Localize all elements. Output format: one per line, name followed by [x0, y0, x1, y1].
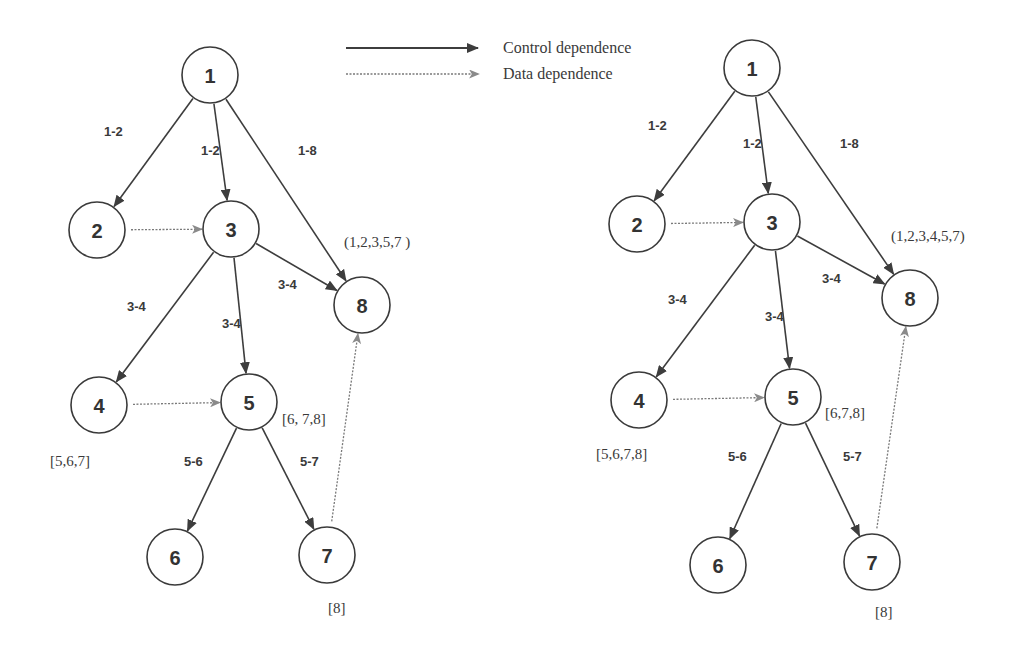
- node-5-set-annotation: [6, 7,8]: [282, 411, 326, 427]
- node-label: 1: [204, 65, 215, 87]
- edge-label-5-7: 5-7: [300, 454, 319, 469]
- data-dependence-edge-7-to-8: [332, 334, 358, 522]
- node-label: 3: [225, 219, 236, 241]
- control-dependence-edge-1-to-8: [768, 92, 893, 274]
- edge-label-3-8: 3-4: [278, 277, 298, 292]
- data-dependence-edge-4-to-5: [133, 403, 220, 405]
- graph-right: 1-21-21-83-43-43-45-65-712384567(1,2,3,4…: [596, 40, 965, 620]
- node-5: 5: [765, 369, 821, 425]
- edge-label-3-4: 3-4: [127, 299, 147, 314]
- edge-label-5-6: 5-6: [184, 454, 203, 469]
- control-dependence-edge-1-to-2: [114, 98, 193, 206]
- control-dependence-edge-3-to-4: [656, 245, 754, 377]
- edge-label-1-3: 1-2: [743, 136, 762, 151]
- control-dependence-edge-1-to-2: [654, 91, 735, 200]
- node-5: 5: [221, 374, 277, 430]
- legend-data-label: Data dependence: [503, 65, 613, 83]
- node-label: 7: [866, 552, 877, 574]
- node-3: 3: [744, 194, 800, 250]
- graph-left: 1-21-21-83-43-43-45-65-712384567(1,2,3,5…: [50, 47, 410, 616]
- node-label: 1: [746, 58, 757, 80]
- node-4: 4: [71, 377, 127, 433]
- edge-label-1-2: 1-2: [648, 118, 667, 133]
- node-2: 2: [69, 202, 125, 258]
- node-label: 5: [243, 392, 254, 414]
- node-label: 2: [631, 214, 642, 236]
- edge-label-1-8: 1-8: [298, 143, 317, 158]
- legend-control-label: Control dependence: [503, 39, 631, 57]
- control-dependence-edge-3-to-4: [116, 252, 213, 382]
- node-8: 8: [334, 277, 390, 333]
- edge-label-1-2: 1-2: [104, 124, 123, 139]
- control-dependence-edge-5-to-6: [730, 423, 781, 538]
- node-1: 1: [182, 47, 238, 103]
- data-dependence-edge-2-to-3: [131, 229, 202, 230]
- node-label: 4: [93, 395, 105, 417]
- data-dependence-edge-2-to-3: [671, 222, 743, 223]
- node-1: 1: [724, 40, 780, 96]
- edge-label-3-8: 3-4: [822, 271, 842, 286]
- edge-label-5-7: 5-7: [843, 449, 862, 464]
- node-7: 7: [299, 527, 355, 583]
- edge-label-3-4: 3-4: [668, 292, 688, 307]
- node-2: 2: [609, 196, 665, 252]
- node-5-set-annotation: [6,7,8]: [825, 405, 865, 421]
- node-4-set-annotation: [5,6,7,8]: [596, 446, 647, 462]
- node-label: 4: [633, 390, 645, 412]
- control-dependence-edge-5-to-7: [262, 428, 314, 529]
- node-8-set-annotation: (1,2,3,5,7 ): [344, 234, 410, 251]
- dependence-graph-figure: Control dependence Data dependence 1-21-…: [0, 0, 1033, 663]
- edge-label-1-3: 1-2: [201, 143, 220, 158]
- node-7-set-annotation: [8]: [328, 600, 346, 616]
- edge-label-5-6: 5-6: [728, 449, 747, 464]
- node-label: 6: [169, 547, 180, 569]
- data-dependence-edge-7-to-8: [877, 327, 906, 529]
- control-dependence-edge-5-to-6: [187, 428, 236, 531]
- edge-label-3-5: 3-4: [765, 309, 785, 324]
- legend: Control dependence Data dependence: [346, 39, 631, 83]
- control-dependence-edge-5-to-7: [806, 423, 860, 536]
- node-8: 8: [882, 270, 938, 326]
- node-6: 6: [147, 529, 203, 585]
- node-label: 5: [787, 387, 798, 409]
- node-4: 4: [611, 372, 667, 428]
- node-label: 3: [766, 212, 777, 234]
- node-label: 2: [91, 220, 102, 242]
- node-label: 7: [321, 545, 332, 567]
- node-label: 8: [356, 295, 367, 317]
- node-3: 3: [203, 201, 259, 257]
- node-label: 8: [904, 288, 915, 310]
- node-7-set-annotation: [8]: [875, 604, 893, 620]
- data-dependence-edge-4-to-5: [673, 398, 764, 400]
- node-label: 6: [712, 555, 723, 577]
- edge-label-1-8: 1-8: [840, 136, 859, 151]
- legend-control-dependence: Control dependence: [346, 39, 631, 57]
- node-4-set-annotation: [5,6,7]: [50, 453, 90, 469]
- node-8-set-annotation: (1,2,3,4,5,7): [891, 228, 965, 245]
- legend-data-dependence: Data dependence: [346, 65, 613, 83]
- node-7: 7: [844, 534, 900, 590]
- node-6: 6: [690, 537, 746, 593]
- edge-label-3-5: 3-4: [222, 316, 242, 331]
